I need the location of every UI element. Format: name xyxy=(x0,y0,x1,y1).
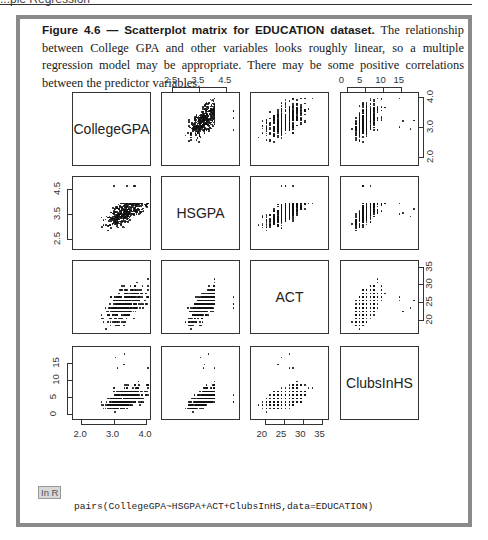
data-point xyxy=(112,401,114,403)
data-point xyxy=(195,404,197,406)
data-point xyxy=(143,303,145,305)
data-point xyxy=(289,408,291,410)
data-point xyxy=(214,381,216,383)
data-point xyxy=(300,106,302,108)
data-point xyxy=(138,293,140,295)
tick-label: 20 xyxy=(257,428,268,439)
data-point xyxy=(273,398,275,400)
data-point xyxy=(370,204,372,206)
data-point xyxy=(370,300,372,302)
data-point xyxy=(366,218,368,220)
data-point xyxy=(373,123,375,125)
data-point xyxy=(359,296,361,298)
data-point xyxy=(108,307,110,309)
data-point xyxy=(207,115,209,117)
data-point xyxy=(262,227,264,229)
data-point xyxy=(366,318,368,320)
data-point xyxy=(205,314,207,316)
data-point xyxy=(269,125,271,127)
data-point xyxy=(147,387,149,389)
data-point xyxy=(355,133,357,135)
data-point xyxy=(190,137,192,139)
data-point xyxy=(277,408,279,410)
data-point xyxy=(126,218,128,220)
data-point xyxy=(413,120,415,122)
data-point xyxy=(214,285,216,287)
data-point xyxy=(281,401,283,403)
data-point xyxy=(135,289,137,291)
data-point xyxy=(206,300,208,302)
axis-line xyxy=(347,87,403,88)
data-point xyxy=(373,127,375,129)
data-point xyxy=(190,404,192,406)
data-point xyxy=(213,303,215,305)
data-point xyxy=(273,119,275,121)
data-point xyxy=(200,325,202,327)
data-point xyxy=(144,300,146,302)
data-point xyxy=(366,135,368,137)
data-point xyxy=(202,394,204,396)
data-point xyxy=(285,129,287,131)
data-point xyxy=(308,203,310,205)
data-point xyxy=(300,109,302,111)
data-point xyxy=(266,133,268,135)
data-point xyxy=(413,208,415,210)
data-point xyxy=(190,139,192,141)
data-point xyxy=(118,321,120,323)
data-point xyxy=(355,139,357,141)
data-point xyxy=(292,98,294,100)
data-point xyxy=(289,118,291,120)
data-point xyxy=(381,285,383,287)
data-point xyxy=(370,296,372,298)
data-point xyxy=(362,314,364,316)
data-point xyxy=(116,206,118,208)
data-point xyxy=(195,321,197,323)
data-point xyxy=(141,203,143,205)
data-point xyxy=(214,384,216,386)
data-point xyxy=(355,318,357,320)
data-point xyxy=(101,401,103,403)
data-point xyxy=(289,125,291,127)
data-point xyxy=(103,224,105,226)
data-point xyxy=(277,124,279,126)
data-point xyxy=(289,384,291,386)
data-point xyxy=(214,398,216,400)
data-point xyxy=(210,128,212,130)
data-point xyxy=(285,185,287,187)
data-point xyxy=(109,219,111,221)
data-point xyxy=(233,117,235,119)
data-point xyxy=(285,125,287,127)
data-point xyxy=(121,300,123,302)
data-point xyxy=(362,318,364,320)
data-point xyxy=(126,296,128,298)
data-point xyxy=(126,384,128,386)
data-point xyxy=(373,216,375,218)
data-point xyxy=(145,204,147,206)
diagonal-label-panel: HSGPA xyxy=(161,176,240,250)
data-point xyxy=(136,391,138,393)
data-point xyxy=(202,300,204,302)
data-point xyxy=(277,132,279,134)
data-point xyxy=(370,289,372,291)
data-point xyxy=(213,401,215,403)
data-point xyxy=(185,408,187,410)
data-point xyxy=(377,213,379,215)
data-point xyxy=(110,217,112,219)
tick-label: 20 xyxy=(423,314,434,325)
data-point xyxy=(269,220,271,222)
data-point xyxy=(281,357,283,359)
data-point xyxy=(281,185,283,187)
data-point xyxy=(136,303,138,305)
data-point xyxy=(214,387,216,389)
data-point xyxy=(300,123,302,125)
data-point xyxy=(359,125,361,127)
data-point xyxy=(201,401,203,403)
axis-line xyxy=(172,87,227,88)
data-point xyxy=(370,121,372,123)
data-point xyxy=(285,404,287,406)
data-point xyxy=(292,384,294,386)
data-point xyxy=(355,311,357,313)
data-point xyxy=(103,318,105,320)
data-point xyxy=(277,206,279,208)
data-point xyxy=(296,381,298,383)
